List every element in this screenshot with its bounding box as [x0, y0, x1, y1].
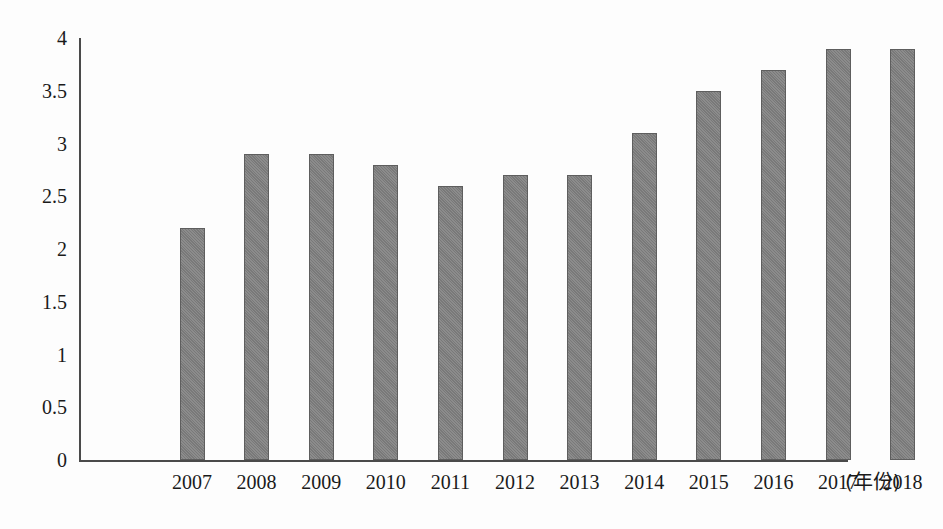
bar-chart-figure: 00.511.522.533.54 2007200820092010201120…	[0, 0, 943, 529]
x-axis-tick-label: 2014	[624, 472, 664, 492]
x-axis-tick-label: 2013	[560, 472, 600, 492]
x-axis-tick-label: 2007	[172, 472, 212, 492]
bar	[761, 70, 786, 460]
y-axis-tick-label: 2	[57, 239, 67, 259]
bar	[826, 49, 851, 460]
x-axis-tick-label: 2016	[753, 472, 793, 492]
y-axis-tick-label: 1	[57, 345, 67, 365]
bar	[373, 165, 398, 460]
bar	[890, 49, 915, 460]
bar	[309, 154, 334, 460]
x-axis-tick-label: 2008	[237, 472, 277, 492]
x-axis-unit-label: (年份)	[845, 472, 901, 492]
x-axis-tick-label: 2015	[689, 472, 729, 492]
bar	[632, 133, 657, 460]
bar	[696, 91, 721, 460]
y-axis-line	[79, 38, 81, 462]
y-axis-tick-label: 0.5	[42, 397, 67, 417]
bar	[503, 175, 528, 460]
bar	[567, 175, 592, 460]
plot-area: 00.511.522.533.54	[79, 38, 848, 462]
y-axis-tick-label: 0	[57, 450, 67, 470]
x-axis-tick-label: 2011	[431, 472, 470, 492]
y-axis-tick-label: 1.5	[42, 292, 67, 312]
bar	[180, 228, 205, 460]
x-axis-tick-label: 2012	[495, 472, 535, 492]
y-axis-tick-label: 4	[57, 28, 67, 48]
bar	[244, 154, 269, 460]
x-axis-line	[79, 460, 848, 462]
y-axis-tick-label: 3	[57, 134, 67, 154]
bar	[438, 186, 463, 460]
y-axis-tick-label: 2.5	[42, 186, 67, 206]
x-axis-tick-label: 2009	[301, 472, 341, 492]
y-axis-tick-label: 3.5	[42, 81, 67, 101]
x-axis-tick-label: 2010	[366, 472, 406, 492]
